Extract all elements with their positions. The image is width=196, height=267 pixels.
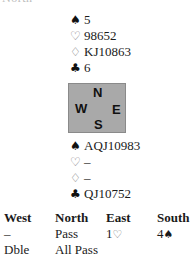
south-clubs-row: ♣ QJ10752 [70,186,140,202]
diamond-icon: ♢ [70,170,83,186]
compass-north-label: N [93,85,102,100]
header-west: West [4,210,31,226]
south-spades-row: ♠ AQJ10983 [70,138,140,154]
north-diamonds-row: ♢ KJ10863 [70,44,131,60]
bid-west: Dble [4,242,29,258]
header-north: North [55,210,88,226]
compass-west-label: W [75,101,87,116]
compass-box: N W E S [68,83,126,133]
south-hearts-cards: – [84,154,91,170]
club-icon: ♣ [70,186,83,202]
spade-icon: ♠ [70,138,83,154]
auction-round: – Pass 1♡ 4♠ [0,226,196,242]
heart-icon: ♡ [70,28,83,44]
spade-icon: ♠ [164,228,174,241]
south-hand: ♠ AQJ10983 ♡ – ♢ – ♣ QJ10752 [70,138,140,202]
north-hearts-row: ♡ 98652 [70,28,131,44]
bid-north: Pass [55,226,78,242]
bid-north: All Pass [55,242,98,258]
clipped-heading: North [2,0,33,6]
north-hearts-cards: 98652 [84,28,117,44]
compass-east-label: E [112,102,121,117]
north-spades-cards: 5 [84,12,91,28]
auction-table: West North East South – Pass 1♡ 4♠ Dble … [0,210,196,258]
south-clubs-cards: QJ10752 [84,186,131,202]
header-south: South [157,210,190,226]
bid-south: 4♠ [157,226,173,243]
bid-west: – [4,226,11,242]
compass-south-label: S [94,117,103,132]
auction-round: Dble All Pass [0,242,196,258]
south-spades-cards: AQJ10983 [84,138,140,154]
diamond-icon: ♢ [70,44,83,60]
north-diamonds-cards: KJ10863 [84,44,131,60]
heart-icon: ♡ [113,228,123,241]
bid-east: 1♡ [106,226,122,243]
south-diamonds-cards: – [84,170,91,186]
spade-icon: ♠ [70,12,83,28]
north-clubs-row: ♣ 6 [70,60,131,76]
club-icon: ♣ [70,60,83,76]
south-hearts-row: ♡ – [70,154,140,170]
heart-icon: ♡ [70,154,83,170]
header-east: East [106,210,131,226]
south-diamonds-row: ♢ – [70,170,140,186]
north-hand: ♠ 5 ♡ 98652 ♢ KJ10863 ♣ 6 [70,12,131,76]
north-spades-row: ♠ 5 [70,12,131,28]
auction-header-row: West North East South [0,210,196,226]
north-clubs-cards: 6 [84,60,91,76]
